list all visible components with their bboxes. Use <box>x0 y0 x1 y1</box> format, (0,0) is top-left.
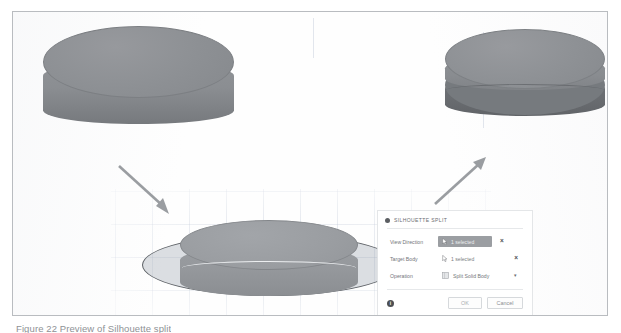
arrow-down-right-icon <box>117 164 187 222</box>
target-body-value: 1 selected <box>451 256 474 262</box>
field-row-operation: Operation Split Solid Body ▾ <box>387 267 523 284</box>
field-row-view-direction: View Direction 1 selected × <box>387 233 523 250</box>
cursor-select-icon <box>442 238 448 245</box>
solid-body-icon <box>442 272 449 279</box>
view-direction-clear-button[interactable]: × <box>500 238 504 244</box>
dialog-button-group: OK Cancel <box>448 297 523 309</box>
view-direction-value: 1 selected <box>451 239 474 245</box>
dialog-title: SILHOUETTE SPLIT <box>394 217 447 223</box>
figure-frame: SILHOUETTE SPLIT View Direction 1 select… <box>12 11 608 316</box>
operation-select[interactable]: Split Solid Body ▾ <box>438 272 523 279</box>
solid-cylinder-model <box>43 26 234 152</box>
field-row-target-body: Target Body 1 selected × <box>387 250 523 267</box>
upper-body-top-face <box>445 29 605 89</box>
dialog-header: SILHOUETTE SPLIT <box>378 211 532 228</box>
split-seam-line <box>446 84 604 96</box>
operation-value: Split Solid Body <box>453 273 489 279</box>
split-cylinder-model <box>445 29 605 147</box>
view-direction-label: View Direction <box>390 239 438 245</box>
silhouette-split-dialog[interactable]: SILHOUETTE SPLIT View Direction 1 select… <box>378 211 532 316</box>
arrow-up-right-icon <box>431 154 497 210</box>
dialog-status-dot-icon <box>385 218 390 223</box>
background-guide-line <box>313 18 314 58</box>
target-body-clear-button[interactable]: × <box>514 255 518 261</box>
cursor-select-icon <box>442 255 448 262</box>
view-direction-selection-chip[interactable]: 1 selected <box>438 236 492 247</box>
dialog-fields-group: View Direction 1 selected × Target Body … <box>387 228 523 290</box>
target-body-label: Target Body <box>390 256 438 262</box>
preview-cylinder-model <box>180 220 358 314</box>
chevron-down-icon[interactable]: ▾ <box>514 273 517 278</box>
cancel-button[interactable]: Cancel <box>487 297 523 309</box>
operation-label: Operation <box>390 273 438 279</box>
preview-split-line <box>182 261 356 275</box>
target-body-selection-chip[interactable]: 1 selected <box>438 253 478 264</box>
info-icon[interactable]: i <box>387 300 394 307</box>
dialog-footer: i OK Cancel <box>378 290 532 309</box>
figure-caption: Figure 22 Preview of Silhouette split <box>16 323 171 333</box>
cylinder-top-face <box>43 26 234 98</box>
ok-button[interactable]: OK <box>448 297 482 309</box>
